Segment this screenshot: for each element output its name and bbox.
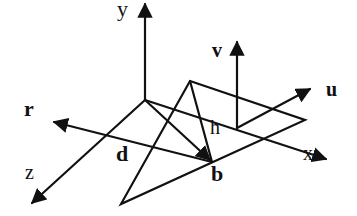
r-vector-label: r — [24, 98, 34, 120]
z-axis-label: z — [25, 162, 34, 182]
x-axis — [145, 100, 326, 159]
d-vector-label: d — [116, 143, 128, 165]
v-vector-label: v — [212, 40, 222, 60]
x-axis-label: x — [303, 143, 313, 163]
b-point-label: b — [211, 163, 223, 185]
d-vector — [145, 100, 210, 160]
diagram-canvas: y v u r h d x b z — [0, 0, 357, 216]
diagram-graphics — [0, 0, 357, 216]
r-vector — [54, 122, 212, 162]
u-vector-label: u — [326, 79, 337, 99]
h-height-label: h — [210, 117, 220, 137]
y-axis-label: y — [117, 0, 128, 20]
